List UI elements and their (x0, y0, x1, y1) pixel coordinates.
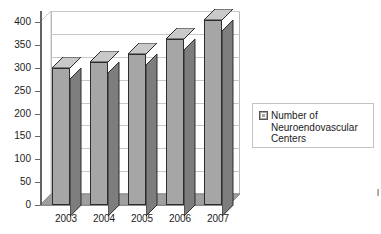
y-axis-tick-label: 300 (1, 63, 31, 73)
y-axis-tick-label: 50 (1, 177, 31, 187)
bar-front-face (52, 68, 70, 205)
y-axis-tick-label: 200 (1, 109, 31, 119)
bar-front-face (128, 54, 146, 205)
y-axis-tick-label: 100 (1, 154, 31, 164)
bar-column[interactable] (204, 9, 233, 205)
bar-column[interactable] (52, 57, 81, 205)
bar-side-face (146, 54, 157, 205)
y-axis-tick (35, 114, 40, 115)
bar-top-face (204, 9, 233, 21)
y-axis-tick (35, 68, 40, 69)
x-axis-tick-label: 2004 (84, 213, 124, 224)
y-axis-tick (35, 22, 40, 23)
x-axis-tick-label: 2007 (198, 213, 238, 224)
bar-front-face (204, 20, 222, 205)
y-axis-tick (35, 205, 40, 206)
y-axis-tick (35, 91, 40, 92)
bar-column[interactable] (128, 43, 157, 205)
legend-swatch-icon (259, 111, 268, 120)
y-axis-tick-label: 250 (1, 86, 31, 96)
x-axis-tick-label: 2003 (46, 213, 86, 224)
bar-side-face (184, 39, 195, 205)
y-axis-tick-label: 400 (1, 17, 31, 27)
chart-figure: 050100150200250300350400 200320042005200… (0, 0, 381, 234)
y-axis-tick-label: 0 (1, 200, 31, 210)
y-axis-tick (35, 45, 40, 46)
y-axis-tick-label: 150 (1, 131, 31, 141)
cropped-edge-text: l (377, 188, 381, 222)
bar-front-face (166, 39, 184, 205)
y-axis-tick (35, 136, 40, 137)
y-axis-tick (35, 182, 40, 183)
y-axis-tick (35, 159, 40, 160)
bar-top-face (52, 57, 81, 69)
y-axis-tick-label: 350 (1, 40, 31, 50)
bar-top-face (128, 43, 157, 55)
bar-side-face (70, 68, 81, 205)
bar-column[interactable] (166, 28, 195, 205)
y-axis-line (40, 11, 42, 205)
bar-front-face (90, 62, 108, 205)
bar-top-face (90, 51, 119, 63)
bar-column[interactable] (90, 51, 119, 205)
bar-side-face (222, 20, 233, 205)
chart-legend[interactable]: Number of Neuroendovascular Centers (252, 103, 374, 148)
bar-top-face (166, 28, 195, 40)
x-axis-tick-label: 2005 (122, 213, 162, 224)
x-axis-tick-label: 2006 (160, 213, 200, 224)
legend-item[interactable]: Number of Neuroendovascular Centers (259, 110, 376, 145)
legend-item-label: Number of Neuroendovascular Centers (271, 110, 376, 145)
bar-side-face (108, 62, 119, 205)
